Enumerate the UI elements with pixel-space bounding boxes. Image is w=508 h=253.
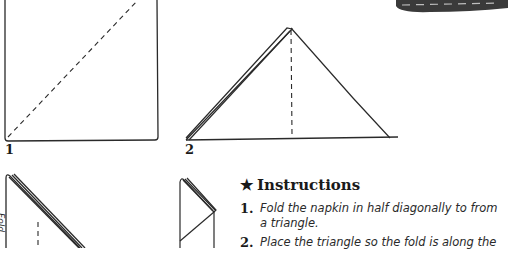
- star-icon: ★: [240, 176, 253, 194]
- figure-2-triangle: [186, 28, 398, 140]
- instruction-step: 1. Fold the napkin in half diagonally to…: [240, 201, 508, 231]
- figure-1-label: 1: [5, 143, 14, 156]
- instructions-heading: ★Instructions: [240, 176, 508, 194]
- instructions-section: ★Instructions 1. Fold the napkin in half…: [240, 176, 508, 253]
- step-number: 1.: [240, 201, 260, 216]
- instruction-step: 2. Place the triangle so the fold is alo…: [240, 235, 508, 250]
- heading-text: Instructions: [257, 176, 360, 194]
- top-right-illustration: [396, 0, 508, 12]
- step-text: Place the triangle so the fold is along …: [260, 235, 496, 250]
- figure-4-folded: [180, 178, 216, 248]
- figure-1-square: [5, 0, 158, 141]
- fold-side-text: Fold: [0, 213, 6, 232]
- figure-3-folded: [6, 174, 85, 248]
- figure-2-label: 2: [185, 143, 194, 156]
- step-text: Fold the napkin in half diagonally to fr…: [260, 201, 508, 231]
- step-number: 2.: [240, 235, 260, 250]
